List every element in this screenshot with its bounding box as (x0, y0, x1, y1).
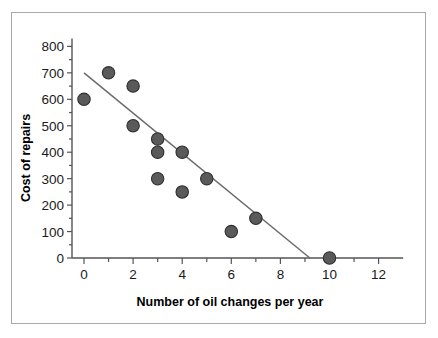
y-tick-label: 100 (41, 225, 64, 240)
y-tick-label: 600 (41, 92, 64, 107)
data-point (102, 67, 114, 79)
x-tick-label: 12 (371, 267, 386, 282)
data-point (250, 212, 262, 224)
scatter-plot-chart: 0100200300400500600700800 024681012 Numb… (0, 0, 438, 338)
y-tick-label: 800 (41, 39, 64, 54)
x-tick-label: 2 (129, 267, 137, 282)
x-tick-label: 4 (178, 267, 186, 282)
y-axis-tick-marks (67, 46, 72, 258)
x-tick-label: 6 (228, 267, 236, 282)
data-point (176, 186, 188, 198)
data-point (151, 146, 163, 158)
y-tick-label: 400 (41, 145, 64, 160)
data-point (151, 172, 163, 184)
y-tick-label: 700 (41, 66, 64, 81)
y-tick-label: 500 (41, 119, 64, 134)
y-tick-label: 200 (41, 198, 64, 213)
data-point (225, 225, 237, 237)
data-point (78, 93, 90, 105)
y-axis-title: Cost of repairs (19, 114, 33, 202)
data-point (323, 252, 335, 264)
data-point (127, 80, 139, 92)
data-point-group (78, 67, 336, 265)
x-tick-label: 10 (322, 267, 337, 282)
chart-svg: 0100200300400500600700800 024681012 Numb… (0, 0, 438, 338)
data-point (151, 133, 163, 145)
x-axis-title: Number of oil changes per year (137, 295, 324, 309)
data-point (127, 120, 139, 132)
x-tick-label: 8 (277, 267, 285, 282)
y-tick-label: 0 (56, 251, 64, 266)
trend-line (84, 73, 310, 258)
y-tick-label: 300 (41, 172, 64, 187)
data-point (176, 146, 188, 158)
data-point (201, 172, 213, 184)
y-axis-tick-labels: 0100200300400500600700800 (41, 39, 64, 266)
x-tick-label: 0 (80, 267, 88, 282)
x-axis-tick-labels: 024681012 (80, 267, 386, 282)
